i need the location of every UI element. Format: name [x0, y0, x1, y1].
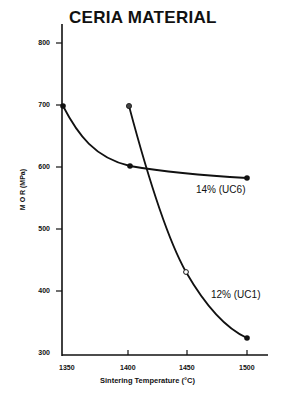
data-point	[184, 270, 189, 275]
y-axis-label: M O R (MPa)	[19, 160, 26, 220]
y-tick-label: 700	[32, 101, 50, 108]
x-tick-label: 1350	[59, 364, 75, 371]
data-point	[244, 175, 250, 181]
y-tick-label: 300	[32, 349, 50, 356]
x-tick-label: 1400	[120, 364, 136, 371]
data-point	[126, 103, 131, 108]
series-line-uc6	[63, 106, 247, 178]
series-line-uc1	[129, 106, 247, 338]
y-tick-label: 800	[32, 39, 50, 46]
x-axis-label: Sintering Temperature (°C)	[100, 376, 195, 385]
series-label-uc1: 12% (UC1)	[211, 289, 260, 300]
data-point	[244, 335, 250, 341]
x-tick-label: 1500	[239, 364, 255, 371]
y-tick-label: 600	[32, 163, 50, 170]
data-point	[127, 163, 133, 169]
y-tick-label: 500	[32, 225, 50, 232]
series-label-uc6: 14% (UC6)	[196, 184, 245, 195]
x-tick-label: 1450	[179, 364, 195, 371]
data-point	[60, 103, 66, 109]
y-ticks	[56, 43, 62, 291]
y-tick-label: 400	[32, 287, 50, 294]
